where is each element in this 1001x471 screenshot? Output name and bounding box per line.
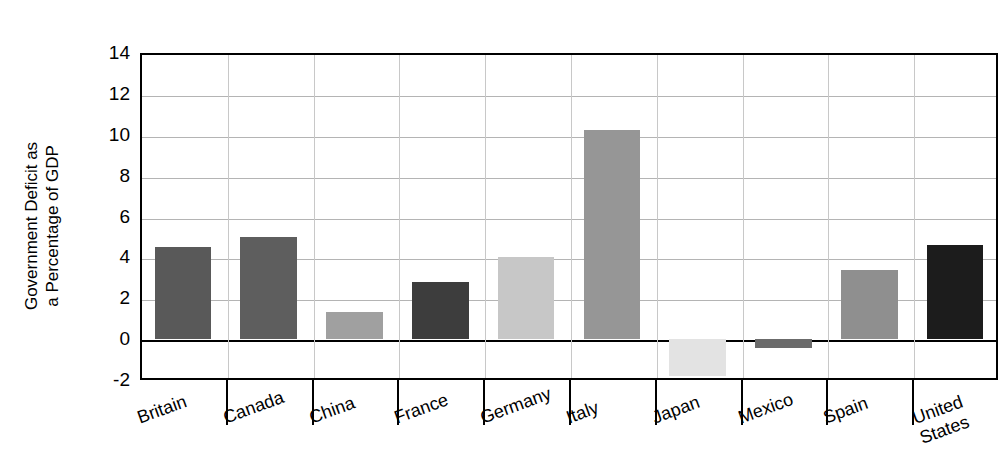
x-tick-label: Canada: [220, 387, 286, 428]
bar: [240, 237, 297, 339]
x-tick-label: France: [392, 389, 452, 428]
category-separator: [483, 380, 485, 425]
y-tick-label: 10: [86, 125, 130, 144]
y-tick-label: 6: [86, 207, 130, 226]
bar: [498, 257, 555, 339]
x-tick-label: Mexico: [735, 389, 796, 428]
category-separator: [741, 380, 743, 425]
category-separator: [912, 380, 914, 425]
y-tick-label: 2: [86, 288, 130, 307]
y-tick-label: 4: [86, 247, 130, 266]
y-tick-label: 12: [86, 84, 130, 103]
category-separator: [569, 380, 571, 425]
x-tick-label: United States: [910, 391, 973, 448]
category-separator: [226, 380, 228, 425]
bar: [326, 312, 383, 340]
x-tick-label: Britain: [134, 391, 189, 428]
category-separator: [312, 380, 314, 425]
y-tick-label: -2: [86, 370, 130, 389]
bar: [841, 270, 898, 339]
bar-chart: Government Deficit as a Percentage of GD…: [0, 0, 1001, 471]
category-separator: [826, 380, 828, 425]
category-separator: [397, 380, 399, 425]
x-tick-label: Japan: [649, 392, 702, 429]
bar: [584, 130, 641, 339]
bar: [669, 339, 726, 376]
x-tick-label: Germany: [478, 383, 555, 428]
bars-container: [140, 53, 998, 380]
y-tick-label: 0: [86, 329, 130, 348]
y-tick-label: 14: [86, 43, 130, 62]
x-tick-label: Spain: [821, 393, 871, 428]
bar: [155, 247, 212, 339]
y-tick-label: 8: [86, 166, 130, 185]
category-separator: [655, 380, 657, 425]
y-axis-title: Government Deficit as a Percentage of GD…: [21, 76, 63, 376]
bar: [412, 282, 469, 339]
bar: [927, 245, 984, 339]
bar: [755, 339, 812, 348]
